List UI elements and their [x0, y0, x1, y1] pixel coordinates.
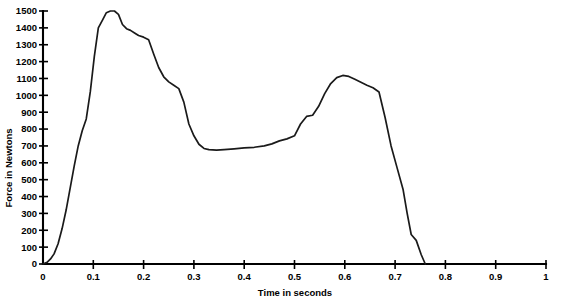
y-axis-tick-label: 1200	[16, 56, 37, 67]
y-axis-tick-label: 100	[21, 242, 37, 253]
y-axis-tick-label: 1400	[16, 22, 37, 33]
x-axis-tick-label: 0.8	[439, 271, 452, 282]
x-axis-tick-label: 1	[543, 271, 549, 282]
force-time-chart: 0100200300400500600700800900100011001200…	[0, 0, 563, 306]
x-axis-tick-label: 0.7	[388, 271, 401, 282]
y-axis-tick-label: 300	[21, 208, 37, 219]
x-axis-tick-label: 0.5	[288, 271, 302, 282]
x-axis-tick-label: 0.9	[489, 271, 502, 282]
y-axis-tick-label: 200	[21, 225, 37, 236]
x-axis-tick-label: 0.3	[187, 271, 200, 282]
x-axis-tick-label: 0.4	[238, 271, 252, 282]
y-axis-title: Force in Newtons	[3, 128, 14, 207]
x-axis-tick-label: 0	[40, 271, 45, 282]
force-curve	[43, 11, 425, 264]
y-axis-tick-label: 400	[21, 191, 37, 202]
x-axis-tick-label: 0.1	[87, 271, 101, 282]
y-axis-tick-label: 700	[21, 140, 37, 151]
y-axis-tick-label: 1300	[16, 39, 37, 50]
chart-canvas: 0100200300400500600700800900100011001200…	[0, 0, 563, 306]
y-axis-tick-label: 600	[21, 157, 37, 168]
y-axis-tick-label: 800	[21, 123, 37, 134]
y-axis-tick-label: 500	[21, 174, 37, 185]
y-axis-tick-labels: 0100200300400500600700800900100011001200…	[16, 5, 37, 269]
y-axis-tick-label: 1500	[16, 5, 37, 16]
y-axis-tick-label: 0	[32, 258, 37, 269]
x-axis-title: Time in seconds	[258, 287, 332, 298]
y-axis-tick-label: 1100	[16, 73, 37, 84]
x-axis-tick-labels: 00.10.20.30.40.50.60.70.80.91	[40, 271, 549, 282]
y-axis-tick-label: 900	[21, 107, 37, 118]
x-axis-tick-label: 0.6	[338, 271, 351, 282]
x-axis-tick-label: 0.2	[137, 271, 150, 282]
y-axis-tick-label: 1000	[16, 90, 37, 101]
